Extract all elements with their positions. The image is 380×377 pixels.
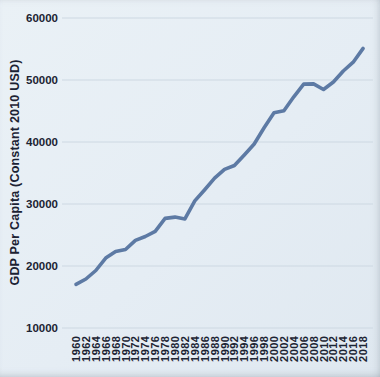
y-tick-label: 50000 [0,73,58,87]
y-tick-label: 20000 [0,259,58,273]
y-tick-label: 10000 [0,321,58,335]
y-axis-title: GDP Per Capita (Constant 2010 USD) [8,23,25,323]
y-tick-label: 30000 [0,197,58,211]
x-tick-label: 2018 [357,336,370,374]
y-tick-label: 40000 [0,135,58,149]
chart-page: GDP Per Capita (Constant 2010 USD) 10000… [0,0,380,377]
gdp-per-capita-line [76,48,363,284]
y-tick-label: 60000 [0,11,58,25]
